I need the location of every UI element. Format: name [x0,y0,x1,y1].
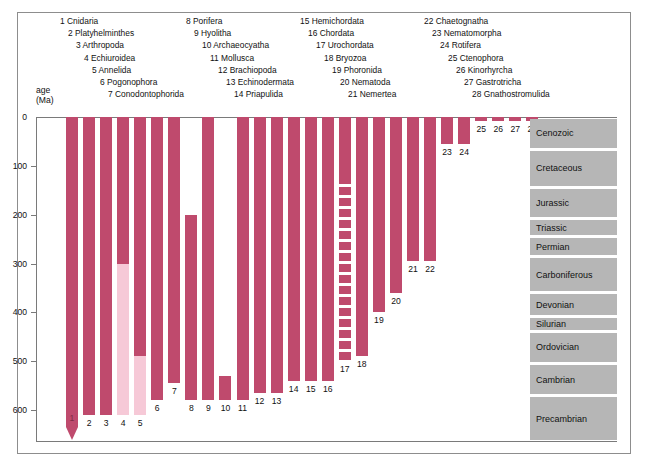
bar-number-label-16: 16 [318,384,338,394]
range-bar-27 [509,117,521,121]
legend-item-number: 10 [202,40,213,50]
bar-number-label-19: 19 [369,315,389,325]
legend-item-3: 3 Arthropoda [76,41,124,50]
bar-number-label-7: 7 [164,386,184,396]
legend-item-25: 25 Ctenophora [448,54,503,63]
legend-item-number: 6 [100,77,107,87]
legend-item-1: 1 Cnidaria [60,17,98,26]
legend-item-number: 16 [308,28,320,38]
range-bar-19 [373,117,385,312]
phyla-legend: 1 Cnidaria2 Platyhelminthes3 Arthropoda4… [18,13,630,105]
legend-item-26: 26 Kinorhyrcha [456,66,512,75]
period-band-ordovician: Ordovician [530,333,617,363]
legend-item-name: Gastrotricha [476,77,522,87]
legend-item-name: Archaeocyatha [213,40,269,50]
bar-number-label-18: 18 [352,359,372,369]
legend-item-name: Conodontophorida [115,89,184,99]
legend-item-name: Bryozoa [336,53,367,63]
range-bar-15 [305,117,317,381]
legend-item-number: 25 [448,53,460,63]
range-bar-12 [254,117,266,393]
legend-item-name: Urochordata [328,40,374,50]
range-bar-21 [407,117,419,261]
legend-item-name: Platyhelminthes [75,28,134,38]
range-bar-9 [202,117,214,400]
legend-item-name: Nemertea [360,89,397,99]
range-bar-8 [185,215,197,401]
bar-number-label-13: 13 [267,396,287,406]
bar-number-label-6: 6 [147,403,167,413]
y-axis-tick-mark-600 [31,410,36,411]
legend-item-18: 18 Bryozoa [324,54,366,63]
range-bar-18 [356,117,368,356]
range-bar-23 [441,117,453,144]
legend-item-name: Nematomorpha [444,28,502,38]
period-band-devonian: Devonian [530,294,617,314]
period-band-carboniferous: Carboniferous [530,258,617,291]
range-bar-tip-1 [66,427,78,440]
y-axis-tick-mark-500 [31,361,36,362]
legend-item-number: 21 [348,89,360,99]
legend-item-name: Hyolitha [201,28,231,38]
legend-item-name: Hemichordata [312,16,364,26]
range-bar-uncertain-17 [339,176,351,362]
legend-item-13: 13 Echinodermata [226,78,294,87]
range-bar-5 [134,117,146,356]
legend-item-27: 27 Gastrotricha [464,78,521,87]
range-bar-14 [288,117,300,381]
legend-item-number: 24 [440,40,452,50]
legend-item-number: 15 [300,16,312,26]
legend-item-2: 2 Platyhelminthes [68,29,134,38]
y-axis-title-line2: (Ma) [36,96,54,106]
range-bar-inferred-4 [117,264,129,416]
y-axis-tick-label-200: 200 [0,210,27,220]
legend-item-number: 7 [108,89,115,99]
range-bar-10 [219,376,231,400]
legend-item-21: 21 Nemertea [348,90,396,99]
legend-item-name: Cnidaria [67,16,98,26]
period-label-permian: Permian [536,242,570,252]
range-bar-2 [83,117,95,415]
y-axis-tick-mark-400 [31,312,36,313]
period-label-triassic: Triassic [536,223,567,233]
legend-item-number: 11 [210,53,221,63]
range-bar-11 [237,117,249,400]
legend-item-8: 8 Porifera [186,17,222,26]
legend-item-name: Annelida [99,65,132,75]
range-bar-24 [458,117,470,144]
legend-item-22: 22 Chaetognatha [424,17,488,26]
legend-item-name: Porifera [193,16,222,26]
legend-item-number: 8 [186,16,193,26]
legend-item-28: 28 Gnathostromulida [472,90,550,99]
period-label-precambrian: Precambrian [536,414,587,424]
legend-item-12: 12 Brachiopoda [218,66,277,75]
legend-item-name: Pogonophora [107,77,157,87]
legend-item-name: Mollusca [221,53,254,63]
geologic-period-column: CenozoicCretaceousJurassicTriassicPermia… [530,117,617,442]
y-axis-title: age (Ma) [36,86,54,105]
period-band-jurassic: Jurassic [530,189,617,217]
legend-item-9: 9 Hyolitha [194,29,231,38]
range-bar-22 [424,117,436,261]
legend-item-number: 18 [324,53,336,63]
period-band-cenozoic: Cenozoic [530,119,617,148]
y-axis-tick-label-300: 300 [0,259,27,269]
period-band-silurian: Silurian [530,318,617,330]
legend-item-number: 19 [332,65,344,75]
legend-item-number: 20 [340,77,352,87]
legend-item-17: 17 Urochordata [316,41,374,50]
legend-item-19: 19 Phoronida [332,66,382,75]
bar-number-label-5: 5 [130,418,150,428]
legend-item-number: 28 [472,89,484,99]
bar-number-label-20: 20 [386,296,406,306]
legend-item-5: 5 Annelida [92,66,131,75]
y-axis-tick-mark-300 [31,264,36,265]
period-band-cambrian: Cambrian [530,365,617,394]
range-bar-7 [168,117,180,383]
legend-item-name: Rotifera [452,40,481,50]
range-bar-3 [100,117,112,415]
legend-item-number: 22 [424,16,436,26]
y-axis-tick-mark-200 [31,215,36,216]
period-label-jurassic: Jurassic [536,198,569,208]
legend-item-number: 27 [464,77,476,87]
